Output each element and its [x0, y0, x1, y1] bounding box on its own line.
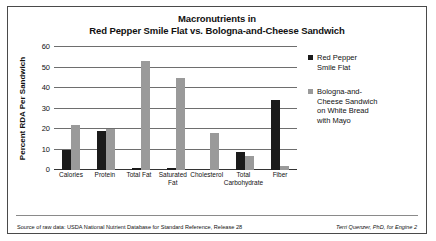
bar-series-1	[106, 129, 115, 170]
bar-group	[228, 47, 263, 170]
footer: Source of raw data: USDA National Nutrie…	[17, 224, 417, 230]
x-tick-label: Total Carbohydrate	[224, 171, 263, 187]
legend-label: Bologna-and- Cheese Sandwich on White Br…	[317, 87, 377, 125]
bar-series-0	[236, 152, 245, 170]
y-tick-label-60: 60	[42, 42, 50, 51]
x-tick-label: Cholesterol	[190, 171, 224, 187]
chart-title-line-1: Macronutrients in	[8, 13, 426, 25]
bar-series-1	[176, 78, 185, 170]
bar-group	[54, 47, 89, 170]
y-tick-label-10: 10	[42, 144, 50, 153]
x-axis-tick-labels: CaloriesProteinTotal FatSaturated FatCho…	[54, 171, 297, 187]
x-tick-label: Protein	[88, 171, 122, 187]
footer-divider	[16, 215, 418, 216]
footer-credit-text: Terri Quenzer, PhD, for Engine 2	[336, 224, 417, 230]
bar-series-1	[245, 156, 254, 170]
y-tick-label-30: 30	[42, 103, 50, 112]
y-tick-label-0: 0	[46, 165, 50, 174]
bar-series-1	[141, 61, 150, 170]
x-tick-label: Saturated Fat	[156, 171, 190, 187]
bar-groups	[54, 47, 297, 170]
bar-series-0	[97, 131, 106, 170]
bar-series-0	[62, 150, 71, 171]
legend-entry[interactable]: Red Pepper Smile Flat	[308, 53, 420, 72]
y-tick-label-20: 20	[42, 124, 50, 133]
legend-label: Red Pepper Smile Flat	[317, 53, 357, 72]
y-tick-label-40: 40	[42, 83, 50, 92]
chart-legend: Red Pepper Smile FlatBologna-and- Cheese…	[308, 53, 420, 140]
bar-group	[158, 47, 193, 170]
bar-group	[89, 47, 124, 170]
x-tick-label: Total Fat	[122, 171, 156, 187]
y-axis-title: Percent RDA Per Sandwich	[16, 47, 30, 170]
y-tick-label-50: 50	[42, 62, 50, 71]
legend-entry[interactable]: Bologna-and- Cheese Sandwich on White Br…	[308, 87, 420, 125]
chart-title-line-2: Red Pepper Smile Flat vs. Bologna-and-Ch…	[8, 25, 426, 37]
bar-series-0	[132, 168, 141, 170]
plot-area: 0102030405060	[54, 47, 297, 170]
legend-swatch-icon	[308, 55, 313, 60]
bar-series-0	[271, 100, 280, 170]
x-tick-label: Calories	[54, 171, 88, 187]
bar-series-1	[210, 133, 219, 170]
footer-source-text: Source of raw data: USDA National Nutrie…	[17, 224, 242, 230]
chart-figure: Macronutrients in Red Pepper Smile Flat …	[7, 6, 427, 234]
bar-group	[262, 47, 297, 170]
bar-group	[193, 47, 228, 170]
bar-series-1	[71, 125, 80, 170]
chart-title: Macronutrients in Red Pepper Smile Flat …	[8, 13, 426, 37]
y-axis-title-label: Percent RDA Per Sandwich	[19, 57, 28, 160]
bar-group	[123, 47, 158, 170]
bar-series-0	[167, 168, 176, 170]
x-tick-label: Fiber	[263, 171, 297, 187]
legend-swatch-icon	[308, 89, 313, 94]
bar-series-1	[280, 166, 289, 170]
